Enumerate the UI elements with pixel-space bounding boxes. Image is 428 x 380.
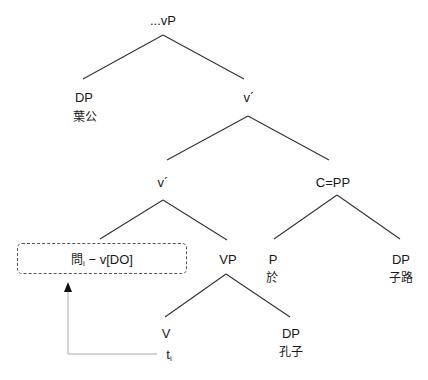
branch-vbar-top-right (248, 116, 329, 160)
branch-vp-right (226, 274, 290, 317)
node-spec-dp-label: DP (75, 90, 93, 105)
node-vbar-mid-label: v´ (158, 175, 169, 190)
node-root-label: ...vP (150, 13, 176, 28)
moved-head-text: 問i − v[DO] (18, 252, 186, 271)
node-obj-dp-word: 孔子 (279, 345, 303, 360)
node-p-word: 於 (266, 271, 278, 286)
branch-cpp-left (274, 195, 337, 239)
node-v-trace: ti (166, 347, 171, 366)
branch-vbar-top-left (167, 116, 248, 160)
node-cpp-label: C=PP (316, 175, 350, 190)
node-v-label: V (162, 326, 171, 341)
node-spec-dp-word: 葉公 (73, 110, 97, 125)
tree-branches (0, 0, 428, 380)
node-pp-dp-word: 子路 (389, 271, 413, 286)
node-p-label: P (269, 252, 278, 267)
branch-vp-left (165, 274, 226, 317)
branch-root-left (83, 35, 163, 79)
branch-vbar-mid-left (100, 200, 163, 239)
node-vp-label: VP (219, 252, 236, 267)
node-pp-dp-label: DP (392, 252, 410, 267)
movement-arrowhead-icon (64, 282, 72, 292)
node-obj-dp-label: DP (282, 326, 300, 341)
moved-head-rest: − v[DO] (88, 252, 132, 267)
trace-index: i (170, 354, 172, 363)
moved-head-index: i (83, 259, 85, 268)
moved-head-box: 問i − v[DO] (17, 243, 187, 274)
moved-head-char: 問 (71, 253, 83, 267)
node-vbar-top-label: v´ (244, 90, 255, 105)
branch-cpp-right (337, 195, 400, 239)
branch-vbar-mid-right (163, 200, 227, 240)
branch-root-right (163, 35, 244, 79)
movement-arrow-line (68, 290, 157, 354)
